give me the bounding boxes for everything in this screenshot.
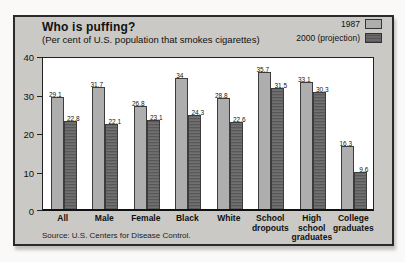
bar-series-1987-0 [51, 97, 64, 209]
bar-series-2000-1 [105, 124, 118, 209]
source-note: Source: U.S. Centers for Disease Control… [42, 231, 191, 240]
x-category-label-0: All [57, 214, 68, 224]
y-tick-label-0: 0 [29, 206, 34, 217]
bar-value-label: 22.8 [67, 115, 80, 122]
bar-value-label: 26.8 [132, 100, 145, 107]
bar-value-label: 22.1 [108, 118, 121, 125]
bar-series-2000-2 [147, 120, 160, 209]
y-tick-label-30: 30 [23, 90, 34, 101]
bar-value-label: 30.3 [316, 86, 329, 93]
legend-swatch-1987 [365, 19, 382, 29]
bar-series-1987-1 [92, 87, 105, 209]
legend: 1987 2000 (projection) [296, 19, 382, 43]
legend-item-2000: 2000 (projection) [296, 33, 382, 43]
bar-series-1987-6 [300, 82, 313, 209]
x-category-label-6: High school graduates [291, 214, 332, 243]
bar-value-label: 28.8 [215, 92, 228, 99]
bar-series-1987-5 [258, 72, 271, 209]
y-tick-label-20: 20 [23, 129, 34, 140]
y-tick-label-40: 40 [23, 52, 34, 63]
x-category-label-7: College graduates [333, 214, 374, 233]
bar-series-1987-7 [341, 146, 354, 209]
bar-series-1987-2 [134, 106, 147, 209]
bar-value-label: 31.7 [90, 81, 103, 88]
bar-value-label: 24.3 [191, 109, 204, 116]
x-category-label-5: School dropouts [252, 214, 289, 233]
bar-series-2000-5 [271, 88, 284, 209]
bar-value-label: 22.6 [233, 116, 246, 123]
y-axis: 010203040 [15, 57, 42, 211]
bar-series-2000-3 [188, 115, 201, 209]
x-category-label-3: Black [176, 214, 199, 224]
legend-item-1987: 1987 [341, 19, 382, 29]
bar-series-1987-4 [217, 98, 230, 209]
bar-series-2000-0 [64, 121, 77, 209]
x-axis-labels: AllMaleFemaleBlackWhiteSchool dropoutsHi… [42, 214, 374, 246]
chart-title: Who is puffing? [42, 20, 136, 34]
bar-value-label: 35.7 [256, 66, 269, 73]
y-tick-label-10: 10 [23, 167, 34, 178]
x-category-label-4: White [217, 214, 240, 224]
bar-value-label: 33.1 [298, 76, 311, 83]
bar-value-label: 31.5 [274, 82, 287, 89]
bar-value-label: 34 [176, 72, 183, 79]
bar-series-2000-6 [313, 92, 326, 209]
bar-series-1987-3 [175, 78, 188, 209]
bar-value-label: 29.1 [49, 91, 62, 98]
bar-value-label: 23.1 [150, 114, 163, 121]
bar-value-label: 16.3 [339, 140, 352, 147]
x-category-label-1: Male [95, 214, 114, 224]
bar-series-2000-7 [354, 172, 367, 209]
legend-label-2000: 2000 (projection) [296, 33, 360, 43]
bar-value-label: 9.6 [359, 166, 368, 173]
chart-subtitle: (Per cent of U.S. population that smokes… [42, 34, 260, 45]
chart-panel: Who is puffing? (Per cent of U.S. popula… [13, 15, 394, 246]
plot-area: 29.122.831.722.126.823.13424.328.822.635… [42, 57, 374, 211]
x-category-label-2: Female [131, 214, 160, 224]
legend-label-1987: 1987 [341, 19, 360, 29]
legend-swatch-2000 [365, 33, 382, 43]
bar-series-2000-4 [230, 122, 243, 209]
